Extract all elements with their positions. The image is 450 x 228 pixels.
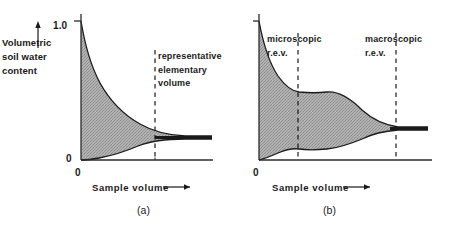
panel-a-rev-annotation-line2: elementary (158, 64, 228, 78)
panel-b-macroscopic-rev-line2: r.e.v. (365, 47, 445, 61)
panel-b-caption: (b) (323, 204, 336, 218)
y-axis-label: Volumetric soil water content (2, 36, 76, 77)
panel-a-x-axis-zero-label: 0 (75, 166, 81, 179)
figure-root: Volumetric soil water content 1.0 0 0 0 … (0, 0, 450, 228)
panel-a-x-axis-label: Sample volume (92, 182, 169, 195)
y-axis-tick-top-label: 1.0 (53, 19, 67, 32)
panel-a-rev-annotation-line3: volume (158, 77, 228, 91)
y-axis-label-line1: Volumetric (2, 36, 76, 50)
panel-a-rev-annotation-line1: representative (158, 50, 228, 64)
y-axis-label-line3: content (2, 64, 76, 78)
panel-a (74, 14, 213, 190)
panel-b-macroscopic-rev-annotation: macroscopic r.e.v. (365, 33, 445, 61)
panel-b-microscopic-rev-line1: microscopic (267, 33, 341, 47)
panel-a-caption: (a) (137, 204, 150, 218)
y-axis-tick-zero-label: 0 (66, 152, 72, 165)
panel-b-microscopic-rev-annotation: microscopic r.e.v. (267, 33, 341, 61)
panel-a-rev-annotation: representative elementary volume (158, 50, 228, 91)
panel-a-converged-band (155, 136, 212, 139)
y-axis-label-line2: soil water (2, 50, 76, 64)
panel-b-x-axis-label: Sample volume (272, 182, 349, 195)
panel-b-x-axis-zero-label: 0 (253, 166, 259, 179)
panel-b-microscopic-rev-line2: r.e.v. (267, 47, 341, 61)
panel-b-macroscopic-rev-line1: macroscopic (365, 33, 445, 47)
